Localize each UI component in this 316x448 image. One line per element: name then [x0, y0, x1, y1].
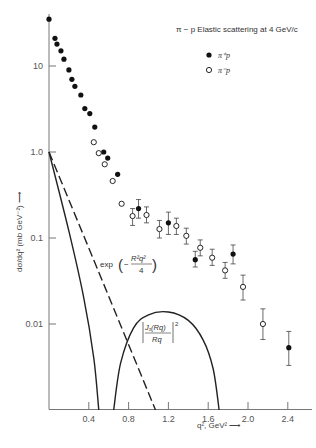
- bessel-denominator: Rq: [152, 335, 162, 344]
- data-point-pi-minus-p: [240, 284, 245, 289]
- data-point-pi-minus-p: [184, 233, 189, 238]
- data-point-pi-plus-p: [82, 106, 87, 111]
- data-point-pi-plus-p: [286, 345, 291, 350]
- bessel-annotation: J₁(Rq) Rq 2: [143, 321, 179, 344]
- data-point-pi-minus-p: [157, 226, 162, 231]
- x-axis-label: q², GeV² ⟶: [197, 421, 241, 430]
- exp-paren-left: (: [118, 256, 123, 273]
- data-point-pi-plus-p: [92, 124, 97, 129]
- x-tick-label: 0.8: [122, 414, 135, 424]
- x-tick-label: 0.4: [83, 414, 96, 424]
- data-point-pi-minus-p: [198, 245, 203, 250]
- data-point-pi-plus-p: [66, 67, 71, 72]
- bessel-numerator: J₁(Rq): [144, 323, 166, 332]
- chart-title: π − p Elastic scattering at 4 GeV/c: [176, 25, 298, 34]
- legend-marker-open: [206, 67, 211, 72]
- bessel-curve-1: [49, 152, 99, 410]
- y-tick-label: 0.1: [30, 233, 43, 243]
- data-point-pi-plus-p: [193, 257, 198, 262]
- y-axis-label: dσ/dq² (mb GeV⁻²) ⟶: [15, 191, 24, 272]
- data-point-pi-plus-p: [46, 17, 51, 22]
- data-points: [46, 17, 291, 366]
- data-point-pi-plus-p: [78, 92, 83, 97]
- exp-paren-right: ): [152, 256, 157, 273]
- data-point-pi-minus-p: [260, 321, 265, 326]
- data-point-pi-plus-p: [115, 172, 120, 177]
- data-point-pi-plus-p: [166, 220, 171, 225]
- data-point-pi-plus-p: [58, 48, 63, 53]
- data-point-pi-plus-p: [54, 41, 59, 46]
- data-point-pi-minus-p: [119, 201, 124, 206]
- data-point-pi-plus-p: [87, 111, 92, 116]
- data-point-pi-plus-p: [52, 36, 57, 41]
- x-tick-label: 2.0: [242, 414, 255, 424]
- y-tick-label: 1.0: [30, 147, 43, 157]
- legend-marker-filled: [206, 52, 211, 57]
- x-tick-label: 2.4: [282, 414, 295, 424]
- data-point-pi-minus-p: [210, 255, 215, 260]
- data-point-pi-minus-p: [96, 151, 101, 156]
- exp-minus-sign: −: [124, 260, 129, 269]
- legend-label-pi-minus-p: π⁻p: [218, 66, 230, 75]
- bessel-power: 2: [175, 321, 179, 327]
- chart-canvas: 101.00.10.01 0.40.81.21.62.02.4 π − p El…: [0, 0, 316, 448]
- x-tick-label: 1.2: [162, 414, 175, 424]
- exp-numerator: R²q²: [131, 254, 146, 263]
- y-tick-label: 10: [33, 61, 43, 71]
- data-point-pi-minus-p: [144, 212, 149, 217]
- exp-curve: [49, 152, 156, 410]
- legend: π⁺p π⁻p: [206, 51, 230, 75]
- bessel-curve-2: [114, 312, 219, 410]
- legend-label-pi-plus-p: π⁺p: [218, 51, 230, 60]
- data-point-pi-minus-p: [174, 223, 179, 228]
- data-point-pi-plus-p: [61, 57, 66, 62]
- y-tick-label: 0.01: [25, 319, 43, 329]
- exp-annotation: exp ( − R²q² 4 ): [100, 254, 157, 275]
- y-ticks: 101.00.10.01: [25, 61, 56, 329]
- data-point-pi-minus-p: [91, 140, 96, 145]
- data-point-pi-plus-p: [72, 84, 77, 89]
- data-point-pi-minus-p: [130, 213, 135, 218]
- data-point-pi-minus-p: [110, 178, 115, 183]
- data-point-pi-plus-p: [69, 77, 74, 82]
- data-point-pi-minus-p: [223, 268, 228, 273]
- exp-label: exp: [100, 260, 113, 269]
- data-point-pi-plus-p: [136, 206, 141, 211]
- data-point-pi-plus-p: [230, 251, 235, 256]
- data-point-pi-plus-p: [101, 149, 106, 154]
- exp-denominator: 4: [139, 266, 144, 275]
- theory-curves: [49, 152, 219, 410]
- data-point-pi-plus-p: [105, 155, 110, 160]
- data-point-pi-minus-p: [102, 162, 107, 167]
